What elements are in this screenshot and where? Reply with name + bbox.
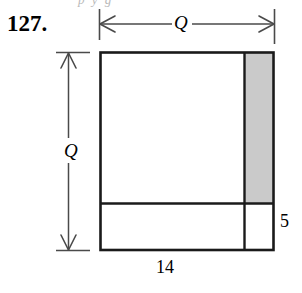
problem-number: 127.: [7, 12, 47, 35]
q-left-dimension-label: Q: [64, 141, 78, 160]
q-top-dimension-label: Q: [174, 13, 188, 32]
side-length-14-label: 14: [156, 258, 174, 276]
geometry-figure: [0, 0, 302, 293]
side-length-5-label: 5: [280, 212, 289, 230]
clipped-top-text: p y g: [78, 0, 113, 6]
shaded-vertical-strip: [245, 53, 273, 204]
